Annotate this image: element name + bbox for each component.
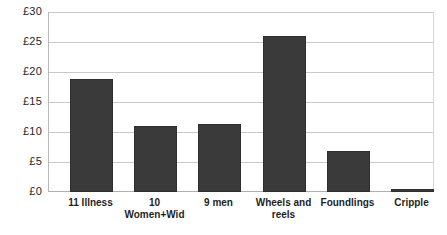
bar-chart-figure: £0£5£10£15£20£25£30 11 Illness10 Women+W…	[0, 0, 447, 235]
y-axis-tick-label: £10	[0, 126, 42, 137]
y-axis-tick-label: £30	[0, 6, 42, 17]
y-axis-tick-label: £5	[0, 156, 42, 167]
y-axis-tick-label: £25	[0, 36, 42, 47]
y-axis-tick-label: £15	[0, 96, 42, 107]
gridline-25	[49, 42, 433, 43]
x-axis-tick-label: Cripple	[379, 197, 444, 209]
bar	[134, 126, 177, 192]
bar	[70, 79, 113, 192]
bar	[327, 151, 370, 192]
plot-area	[48, 12, 434, 192]
y-axis-tick-label: £0	[0, 186, 42, 197]
x-axis-tick-label: 10 Women+Wid	[122, 197, 187, 220]
bar	[263, 36, 306, 192]
x-axis-tick-label: 11 Illness	[58, 197, 123, 209]
gridline-30	[49, 12, 433, 13]
y-axis-tick-label: £20	[0, 66, 42, 77]
bar	[391, 189, 434, 192]
gridline-20	[49, 72, 433, 73]
x-axis-tick-label: 9 men	[186, 197, 251, 209]
x-axis-tick-label: Wheels and reels	[251, 197, 316, 220]
bar	[198, 124, 241, 192]
x-axis-tick-label: Foundlings	[315, 197, 380, 209]
